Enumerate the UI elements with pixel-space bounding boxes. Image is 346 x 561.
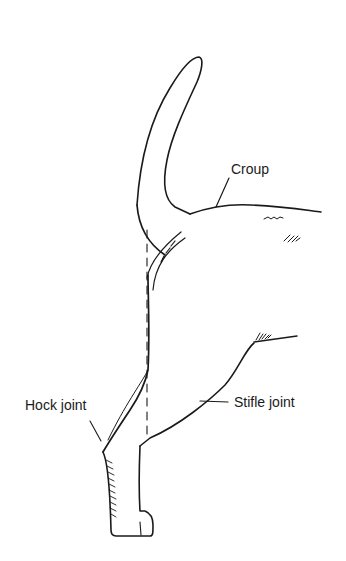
- flank-line: [254, 336, 297, 342]
- thigh-rear-line: [103, 205, 165, 452]
- stifle-joint-label: Stifle joint: [234, 394, 295, 410]
- toe-line: [140, 522, 141, 535]
- hock-leader-line: [90, 421, 101, 441]
- hock-shading: [108, 372, 147, 440]
- tail-outline: [137, 57, 202, 214]
- back-line: [190, 205, 321, 214]
- hair-marks: [264, 217, 300, 242]
- croup-label: Croup: [231, 161, 269, 177]
- dog-hindquarter-illustration: [0, 0, 346, 561]
- hock-joint-label: Hock joint: [25, 397, 86, 413]
- stifle-leader-line: [200, 401, 228, 402]
- croup-leader-line: [216, 178, 229, 207]
- thigh-fold-line: [147, 232, 185, 290]
- flank-hair: [256, 333, 271, 340]
